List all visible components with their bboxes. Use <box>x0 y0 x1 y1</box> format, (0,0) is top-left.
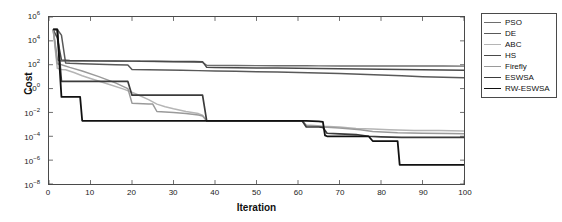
x-tick-label: 20 <box>127 188 136 197</box>
legend-line-swatch <box>484 33 501 34</box>
legend-item-hs[interactable]: HS <box>484 50 553 61</box>
legend-item-abc[interactable]: ABC <box>484 39 553 50</box>
y-tick-label: 106 <box>28 12 40 21</box>
legend-item-label: DE <box>505 28 516 39</box>
legend-line-swatch <box>484 77 501 78</box>
legend: PSODEABCHSFireflyESWSARW-ESWSA <box>481 13 557 98</box>
x-tick-label: 80 <box>377 188 386 197</box>
legend-item-label: ABC <box>505 39 521 50</box>
series-line-rw-eswsa <box>53 29 464 164</box>
x-tick-label: 60 <box>294 188 303 197</box>
x-tick-label: 10 <box>85 188 94 197</box>
legend-item-pso[interactable]: PSO <box>484 17 553 28</box>
convergence-chart-figure: 10−810−610−410−2100102104106 Cost 010203… <box>0 0 562 222</box>
y-tick-label: 104 <box>28 36 40 45</box>
legend-item-label: ESWSA <box>505 72 534 83</box>
series-line-abc <box>53 29 464 130</box>
x-tick-label: 30 <box>169 188 178 197</box>
plot-area <box>48 16 465 185</box>
series-line-de <box>53 29 464 77</box>
x-tick-label: 70 <box>335 188 344 197</box>
x-tick-label: 100 <box>458 188 471 197</box>
legend-line-swatch <box>484 44 501 45</box>
legend-item-de[interactable]: DE <box>484 28 553 39</box>
legend-line-swatch <box>484 88 501 89</box>
legend-item-label: RW-ESWSA <box>505 83 550 94</box>
legend-item-firefly[interactable]: Firefly <box>484 61 553 72</box>
legend-item-label: PSO <box>505 17 522 28</box>
x-tick-label: 90 <box>419 188 428 197</box>
x-axis-title: Iteration <box>48 202 465 213</box>
legend-item-label: Firefly <box>505 61 527 72</box>
legend-line-swatch <box>484 66 501 67</box>
legend-line-swatch <box>484 22 501 23</box>
legend-item-rw-eswsa[interactable]: RW-ESWSA <box>484 83 553 94</box>
x-tick-label: 40 <box>210 188 219 197</box>
y-tick-label: 10−6 <box>24 156 40 165</box>
x-tick-label: 0 <box>46 188 50 197</box>
x-axis-tick-labels: 0102030405060708090100 <box>0 188 562 202</box>
x-tick-label: 50 <box>252 188 261 197</box>
y-tick-label: 10−4 <box>24 132 40 141</box>
legend-item-eswsa[interactable]: ESWSA <box>484 72 553 83</box>
legend-line-swatch <box>484 55 501 56</box>
legend-item-label: HS <box>505 50 516 61</box>
series-lines-svg <box>49 17 464 184</box>
y-axis-title: Cost <box>23 54 34 114</box>
